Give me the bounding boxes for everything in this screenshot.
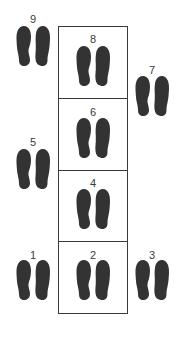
footprint-pair-step-3 <box>134 260 170 300</box>
right-foot-icon <box>35 149 50 189</box>
footprints-icon <box>15 260 51 300</box>
right-foot-icon <box>95 46 110 86</box>
left-foot-icon <box>135 76 150 116</box>
footprint-pair-step-4 <box>75 189 111 229</box>
left-foot-icon <box>16 26 31 66</box>
step-label-6: 6 <box>83 107 103 118</box>
step-label-5: 5 <box>23 137 43 148</box>
footprints-icon <box>75 260 111 300</box>
step-label-7: 7 <box>142 65 162 76</box>
right-foot-icon <box>154 260 169 300</box>
right-foot-icon <box>35 26 50 66</box>
right-foot-icon <box>95 189 110 229</box>
footprints-icon <box>15 149 51 189</box>
footstep-diagram: 9 8 7 6 5 4 1 2 3 <box>0 0 181 337</box>
right-foot-icon <box>154 76 169 116</box>
right-foot-icon <box>95 260 110 300</box>
right-foot-icon <box>35 260 50 300</box>
footprint-pair-step-7 <box>134 76 170 116</box>
footprint-pair-step-2 <box>75 260 111 300</box>
left-foot-icon <box>16 149 31 189</box>
step-label-4: 4 <box>83 178 103 189</box>
left-foot-icon <box>76 189 91 229</box>
left-foot-icon <box>16 260 31 300</box>
right-foot-icon <box>95 118 110 158</box>
left-foot-icon <box>76 46 91 86</box>
left-foot-icon <box>76 118 91 158</box>
footprints-icon <box>15 26 51 66</box>
footprints-icon <box>134 260 170 300</box>
footprint-pair-step-6 <box>75 118 111 158</box>
left-foot-icon <box>135 260 150 300</box>
footprint-pair-step-8 <box>75 46 111 86</box>
footprints-icon <box>75 46 111 86</box>
footprint-pair-step-9 <box>15 26 51 66</box>
left-foot-icon <box>76 260 91 300</box>
step-label-8: 8 <box>83 34 103 45</box>
footprint-pair-step-5 <box>15 149 51 189</box>
step-label-9: 9 <box>23 14 43 25</box>
footprint-pair-step-1 <box>15 260 51 300</box>
footprints-icon <box>134 76 170 116</box>
footprints-icon <box>75 189 111 229</box>
footprints-icon <box>75 118 111 158</box>
